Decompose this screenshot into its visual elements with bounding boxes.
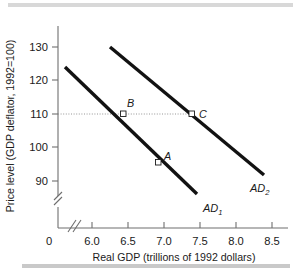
point-marker-b [121, 111, 127, 117]
origin-label: 0 [46, 235, 52, 247]
chart-figure: 130 120 110 100 90 0 6.0 6.5 7.0 7.5 8.0… [0, 0, 295, 272]
curve-ad2 [110, 47, 264, 175]
x-tick-label-7-0: 7.0 [156, 235, 172, 247]
x-tick-label-7-5: 7.5 [192, 235, 208, 247]
x-tick-label-8-0: 8.0 [228, 235, 244, 247]
y-tick-label-90: 90 [36, 175, 48, 187]
x-tick-label-8-5: 8.5 [264, 235, 280, 247]
y-tick-label-100: 100 [29, 141, 48, 153]
curve-ad1 [65, 67, 197, 194]
curve-label-ad1: AD1 [202, 202, 223, 217]
chart-plot-area: 130 120 110 100 90 0 6.0 6.5 7.0 7.5 8.0… [0, 0, 295, 272]
x-tick-label-6-5: 6.5 [120, 235, 136, 247]
x-tick-label-6-0: 6.0 [84, 235, 100, 247]
y-tick-label-120: 120 [29, 74, 48, 86]
x-axis-title: Real GDP (trillions of 1992 dollars) [93, 251, 256, 263]
x-axis-break-icon [68, 220, 81, 232]
y-axis-title: Price level (GDP deflator, 1992=100) [4, 40, 16, 213]
curve-label-ad2-subscript: 2 [264, 188, 270, 197]
curve-label-ad2-text: AD [249, 182, 265, 194]
bottom-divider-rule [22, 264, 290, 268]
point-label-a: A [163, 150, 171, 162]
curve-label-ad1-subscript: 1 [218, 208, 222, 217]
point-marker-c [189, 111, 195, 117]
curve-label-ad2: AD2 [249, 182, 270, 197]
curve-label-ad1-text: AD [202, 202, 218, 214]
y-tick-label-110: 110 [30, 108, 48, 120]
y-tick-label-130: 130 [29, 41, 48, 53]
point-marker-a [156, 160, 162, 166]
point-label-c: C [199, 108, 207, 120]
point-label-b: B [127, 97, 134, 109]
